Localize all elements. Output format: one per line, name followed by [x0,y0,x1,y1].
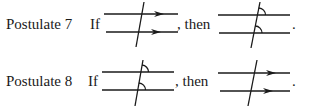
diagram-corresponding-angles-1 [218,2,290,48]
angle-arc-icon [139,83,146,90]
transversal-line [251,2,260,48]
transversal-line [248,60,257,106]
diagram-corresponding-angles-2 [102,60,174,106]
angle-arc-icon [255,26,262,33]
angle-arc-icon [259,8,266,15]
diagram-parallel-arrows-1 [104,2,178,47]
diagram-parallel-arrows-2 [218,60,290,106]
angle-arc-icon [142,65,149,72]
transversal-line [136,2,144,47]
